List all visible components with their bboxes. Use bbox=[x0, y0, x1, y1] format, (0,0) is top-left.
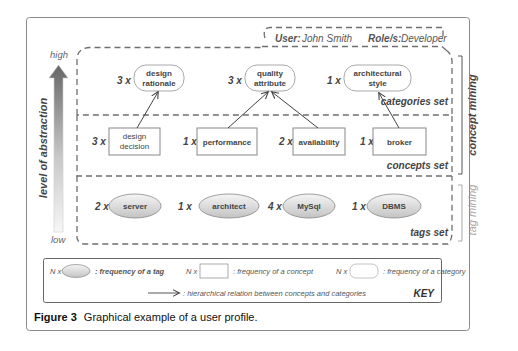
caption-label: Figure 3 bbox=[34, 311, 77, 323]
category-line1: quality bbox=[257, 69, 283, 78]
tags-set-label: tags set bbox=[410, 227, 448, 238]
concept-line1: performance bbox=[203, 138, 252, 147]
tag-mining-label: tag mining bbox=[466, 184, 478, 236]
concept-count: 2 x bbox=[278, 136, 293, 147]
key-concept-desc: : frequency of a concept bbox=[233, 267, 314, 276]
concept-line1: design bbox=[123, 132, 147, 141]
concept-line1: broker bbox=[387, 138, 412, 147]
axis-title: level of abstraction bbox=[37, 98, 49, 199]
concept-count: 3 x bbox=[92, 136, 106, 147]
concept-line2: decision bbox=[120, 142, 149, 151]
role-label: Role/s: bbox=[368, 33, 401, 44]
key-tag-ellipse-icon bbox=[62, 265, 90, 278]
key-category-desc: : frequency of a category bbox=[383, 267, 467, 276]
categories-set-label: categories set bbox=[381, 96, 449, 107]
role-name: Developer bbox=[401, 33, 447, 44]
key-title: KEY bbox=[413, 288, 435, 299]
category-line2: rationale bbox=[142, 79, 176, 88]
tag-label: architect bbox=[212, 202, 246, 211]
category-line2: style bbox=[368, 79, 387, 88]
tag-count: 1 x bbox=[178, 201, 192, 212]
category-line2: attribute bbox=[254, 79, 287, 88]
concept-count: 1 x bbox=[183, 136, 197, 147]
caption-text: Graphical example of a user profile. bbox=[84, 311, 258, 323]
axis-high-label: high bbox=[50, 49, 68, 60]
category-count: 3 x bbox=[117, 75, 131, 86]
key-category-prefix: N x bbox=[336, 267, 348, 276]
tag-label: DBMS bbox=[382, 202, 406, 211]
tag-count: 2 x bbox=[94, 201, 109, 212]
key-arrow-desc: : hierarchical relation between concepts… bbox=[183, 289, 366, 298]
axis-low-label: low bbox=[51, 234, 66, 245]
key-category-box-icon bbox=[350, 264, 378, 278]
category-line1: architectural bbox=[353, 69, 401, 78]
concept-line1: availability bbox=[299, 138, 340, 147]
key-tag-desc: : frequency of a tag bbox=[95, 267, 165, 276]
concept-mining-label: concept mining bbox=[466, 74, 478, 156]
key-tag-prefix: N x bbox=[50, 267, 62, 276]
figure-caption: Figure 3 Graphical example of a user pro… bbox=[34, 311, 258, 323]
tag-label: MySql bbox=[297, 202, 321, 211]
category-count: 3 x bbox=[228, 75, 242, 86]
category-line1: design bbox=[146, 69, 172, 78]
key-concept-prefix: N x bbox=[186, 267, 198, 276]
category-count: 1 x bbox=[327, 75, 341, 86]
user-label: User: bbox=[275, 33, 301, 44]
concepts-set-label: concepts set bbox=[387, 160, 449, 171]
tag-label: server bbox=[123, 202, 147, 211]
key-concept-box-icon bbox=[200, 264, 228, 278]
profile-diagram: User: John Smith Role/s: Developer high … bbox=[0, 0, 518, 351]
concept-count: 1 x bbox=[360, 136, 374, 147]
user-name: John Smith bbox=[301, 33, 352, 44]
tag-count: 1 x bbox=[352, 201, 366, 212]
tag-count: 4 x bbox=[267, 201, 282, 212]
